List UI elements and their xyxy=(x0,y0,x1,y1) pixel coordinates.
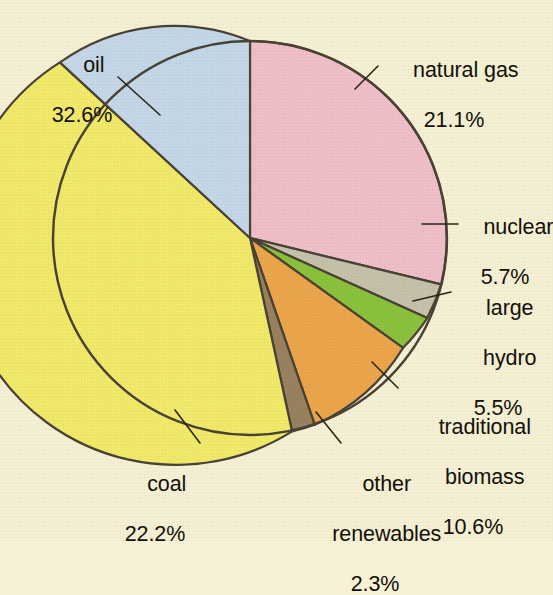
pie-label-other-renewables-name-line2: renewables xyxy=(332,522,441,546)
pie-label-oil-value: 32.6% xyxy=(34,103,130,128)
pie-label-nuclear-name: nuclear xyxy=(484,215,553,239)
pie-label-traditional-biomass-name-line1: traditional xyxy=(439,415,531,439)
pie-label-oil-name: oil xyxy=(83,53,104,77)
pie-label-coal: coal 22.2% xyxy=(105,447,205,595)
pie-label-large-hydro-name-line1: large xyxy=(486,296,533,320)
pie-label-natural-gas-name: natural gas xyxy=(413,58,518,82)
pie-label-natural-gas: natural gas 21.1% xyxy=(379,33,529,183)
pie-label-other-renewables-value: 2.3% xyxy=(300,572,450,595)
pie-label-traditional-biomass-name-line2: biomass xyxy=(445,465,524,489)
pie-label-natural-gas-value: 21.1% xyxy=(379,108,529,133)
pie-label-other-renewables: other renewables 2.3% xyxy=(300,447,450,595)
pie-label-coal-value: 22.2% xyxy=(105,522,205,547)
pie-label-coal-name: coal xyxy=(147,472,186,496)
pie-label-large-hydro-name-line2: hydro xyxy=(483,346,536,370)
pie-label-oil: oil 32.6% xyxy=(34,28,130,178)
pie-label-other-renewables-name-line1: other xyxy=(362,472,411,496)
